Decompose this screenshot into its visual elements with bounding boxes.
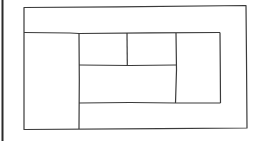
inner-bottom-divider xyxy=(79,103,221,104)
inner-right-edge xyxy=(220,33,221,104)
top-band-divider xyxy=(24,33,220,34)
inner-right-split xyxy=(176,33,177,103)
outer-frame xyxy=(24,6,247,130)
inner-middle-divider xyxy=(79,65,176,66)
rectangle-diagram xyxy=(0,0,256,141)
